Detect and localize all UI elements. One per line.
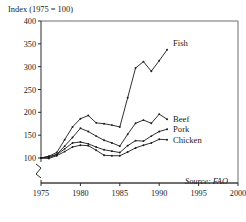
data-point-chicken — [135, 147, 137, 149]
data-point-pork — [158, 131, 160, 133]
x-tick-label: 1985 — [112, 189, 128, 198]
data-point-pork — [111, 150, 113, 152]
data-point-fish — [95, 122, 97, 124]
data-point-beef — [95, 135, 97, 137]
data-point-beef — [150, 122, 152, 124]
series-label-chicken: Chicken — [173, 135, 202, 145]
series-label-fish: Fish — [173, 38, 189, 48]
data-point-beef — [103, 139, 105, 141]
data-point-pork — [166, 128, 168, 130]
data-point-chicken — [166, 139, 168, 141]
data-point-beef — [87, 131, 89, 133]
data-point-chicken — [158, 138, 160, 140]
data-point-fish — [56, 152, 58, 154]
y-tick-label: 400 — [24, 17, 36, 26]
axis-break-icon — [36, 164, 41, 178]
data-point-fish — [150, 70, 152, 72]
source-note: Source: FAO — [185, 177, 228, 186]
data-point-beef — [64, 145, 66, 147]
data-point-chicken — [56, 155, 58, 157]
data-point-beef — [111, 142, 113, 144]
data-point-beef — [166, 118, 168, 120]
data-point-chicken — [40, 157, 42, 159]
data-point-beef — [119, 145, 121, 147]
data-point-chicken — [95, 149, 97, 151]
series-label-beef: Beef — [173, 114, 189, 124]
data-point-fish — [111, 124, 113, 126]
data-point-pork — [79, 141, 81, 143]
y-tick-label: 150 — [24, 131, 36, 140]
data-point-pork — [150, 135, 152, 137]
data-point-beef — [79, 127, 81, 129]
x-tick-label: 2000 — [230, 189, 246, 198]
plot-frame-border — [41, 21, 238, 183]
x-tick-label: 1975 — [33, 189, 49, 198]
series-line-fish — [41, 50, 167, 158]
data-point-beef — [72, 137, 74, 139]
data-point-chicken — [64, 151, 66, 153]
data-point-pork — [119, 152, 121, 154]
series-lines — [41, 50, 167, 159]
data-point-pork — [87, 143, 89, 145]
data-point-beef — [142, 119, 144, 121]
data-point-fish — [87, 115, 89, 117]
data-point-chicken — [48, 158, 50, 160]
data-point-pork — [142, 140, 144, 142]
plot-frame — [41, 21, 238, 183]
data-point-chicken — [79, 144, 81, 146]
data-point-fish — [79, 118, 81, 120]
data-point-pork — [72, 142, 74, 144]
series-label-pork: Pork — [173, 124, 190, 134]
y-tick-label: 200 — [24, 108, 36, 117]
data-point-pork — [135, 140, 137, 142]
data-point-fish — [72, 126, 74, 128]
y-tick-label: 250 — [24, 86, 36, 95]
y-tick-label: 350 — [24, 40, 36, 49]
data-point-pork — [95, 146, 97, 148]
x-tick-label: 1995 — [190, 189, 206, 198]
line-chart: Index (1975 = 100) 100150200250300350400… — [0, 0, 246, 222]
y-tick-label: 100 — [24, 154, 36, 163]
chart-container: Index (1975 = 100) 100150200250300350400… — [0, 0, 246, 222]
data-point-chicken — [72, 146, 74, 148]
y-axis-ticks: 100150200250300350400 — [24, 17, 41, 163]
data-point-chicken — [119, 155, 121, 157]
x-tick-label: 1990 — [151, 189, 167, 198]
data-point-pork — [103, 149, 105, 151]
data-point-fish — [142, 61, 144, 63]
data-point-chicken — [150, 142, 152, 144]
data-point-fish — [127, 97, 129, 99]
data-point-fish — [119, 126, 121, 128]
x-tick-label: 1980 — [72, 189, 88, 198]
data-point-fish — [158, 60, 160, 62]
series-line-beef — [41, 114, 167, 158]
data-point-markers — [40, 49, 168, 160]
data-point-beef — [158, 113, 160, 115]
data-point-beef — [127, 133, 129, 135]
data-point-pork — [64, 148, 66, 150]
y-tick-label: 300 — [24, 63, 36, 72]
data-point-fish — [103, 123, 105, 125]
data-point-chicken — [127, 151, 129, 153]
data-point-pork — [127, 145, 129, 147]
data-point-fish — [166, 49, 168, 51]
data-point-beef — [135, 122, 137, 124]
data-point-fish — [135, 67, 137, 69]
data-point-chicken — [87, 145, 89, 147]
data-point-chicken — [103, 154, 105, 156]
chart-title: Index (1975 = 100) — [8, 5, 73, 14]
data-point-chicken — [111, 155, 113, 157]
data-point-fish — [64, 139, 66, 141]
data-point-chicken — [142, 144, 144, 146]
series-labels: FishBeefPorkChicken — [173, 38, 202, 145]
